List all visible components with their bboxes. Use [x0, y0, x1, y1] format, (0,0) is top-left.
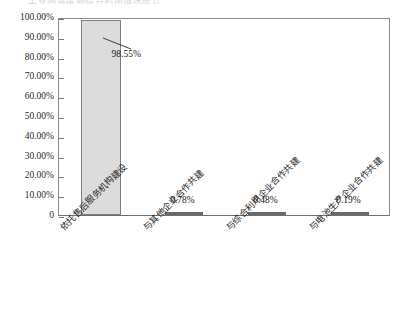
- y-axis-tick-label: 50.00%: [2, 112, 54, 122]
- y-axis-tick-label: 60.00%: [2, 92, 54, 102]
- y-axis-tick-label: 30.00%: [2, 152, 54, 162]
- y-axis-tick-label: 70.00%: [2, 72, 54, 82]
- y-axis-tick-label: 20.00%: [2, 171, 54, 181]
- bar-value-label: 98.55%: [112, 49, 172, 59]
- y-axis-tick-label: 100.00%: [2, 13, 54, 23]
- y-axis-tick-label: 90.00%: [2, 33, 54, 43]
- y-axis-tick-label: 80.00%: [2, 53, 54, 63]
- y-axis-tick-label: 10.00%: [2, 191, 54, 201]
- bar-chart: 工业固体废物综合利用情况统计 010.00%20.00%30.00%40.00%…: [0, 0, 408, 331]
- cut-off-chart-title: 工业固体废物综合利用情况统计: [28, 0, 278, 4]
- y-axis-tick: [59, 217, 64, 218]
- y-axis-tick-label: 0: [2, 211, 54, 221]
- y-axis-tick-label: 40.00%: [2, 132, 54, 142]
